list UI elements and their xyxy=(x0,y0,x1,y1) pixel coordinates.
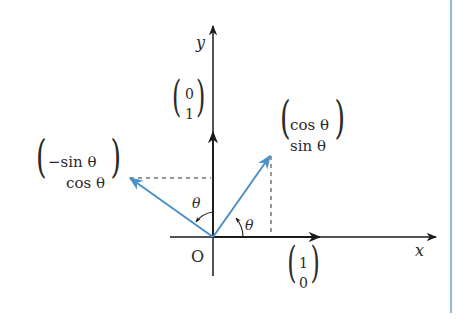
svg-text:(: ( xyxy=(172,71,181,120)
svg-text:0: 0 xyxy=(299,275,308,291)
svg-text:): ) xyxy=(110,131,121,183)
svg-text:1: 1 xyxy=(299,255,308,271)
svg-text:0: 0 xyxy=(185,86,194,102)
label-rotated-e1: ( cos θ sin θ ) xyxy=(280,92,345,155)
rotated-vector-e1 xyxy=(213,156,270,237)
svg-text:(: ( xyxy=(287,238,296,287)
y-axis-label: y xyxy=(195,33,206,52)
label-e2: ( 0 1 ) xyxy=(172,71,205,122)
angle-arc-1 xyxy=(236,218,243,237)
label-rotated-e2: ( −sin θ cos θ ) xyxy=(36,131,121,192)
x-axis-label: x xyxy=(415,241,424,260)
svg-text:(: ( xyxy=(36,131,47,183)
svg-text:): ) xyxy=(334,92,345,144)
svg-text:1: 1 xyxy=(185,106,194,122)
angle-label-1: θ xyxy=(245,217,254,233)
svg-text:sin θ: sin θ xyxy=(290,137,326,155)
svg-text:−sin θ: −sin θ xyxy=(48,153,97,171)
svg-text:cos θ: cos θ xyxy=(66,174,105,192)
origin-label: O xyxy=(191,247,204,266)
rotated-vector-e2 xyxy=(130,178,213,237)
svg-text:): ) xyxy=(196,71,205,120)
angle-arc-2 xyxy=(196,212,213,222)
angle-label-2: θ xyxy=(192,195,201,211)
svg-text:): ) xyxy=(310,238,319,287)
svg-text:cos θ: cos θ xyxy=(290,116,329,134)
rotation-diagram: y x O θ θ ( 0 1 ) ( cos θ sin θ ) ( −sin… xyxy=(0,0,466,323)
label-e1: ( 1 0 ) xyxy=(287,238,320,291)
